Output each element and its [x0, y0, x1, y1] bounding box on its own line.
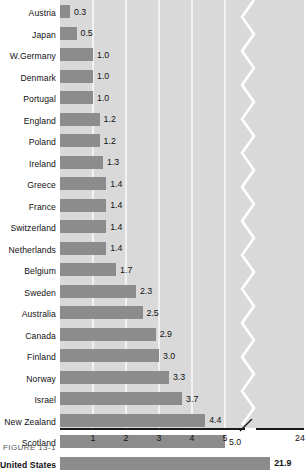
figure-caption: FIGURE 13-1: [3, 444, 56, 452]
bar-row: Belgium1.7: [0, 261, 304, 283]
bar-row: Ireland1.3: [0, 154, 304, 176]
bar-row: Switzerland1.4: [0, 218, 304, 240]
bar: 1.0: [60, 70, 93, 83]
bar-wrapper: 1.0: [60, 48, 93, 61]
bar-wrapper: 2.3: [60, 285, 136, 298]
bar-row: Netherlands1.4: [0, 240, 304, 262]
x-tick-label-24: 24: [295, 434, 305, 443]
bar-wrapper: 4.4: [60, 414, 205, 427]
bar-row: France1.4: [0, 197, 304, 219]
bar-row-label: Canada: [0, 332, 56, 341]
bar-row: W.Germany1.0: [0, 46, 304, 68]
bar-row-label: Japan: [0, 31, 56, 40]
x-tick-label-4: 4: [190, 434, 195, 443]
bar-row-label: United States: [0, 461, 56, 470]
bar-value-label: 2.9: [160, 330, 172, 339]
bar-row: Canada2.9: [0, 326, 304, 348]
bar-wrapper: 1.3: [60, 156, 103, 169]
bar-value-label: 1.0: [97, 50, 109, 59]
bar-value-label: 1.0: [97, 72, 109, 81]
bar-value-label: 0.5: [81, 29, 93, 38]
bar-row-label: France: [0, 203, 56, 212]
bar-wrapper: 1.4: [60, 199, 106, 212]
bar-row-label: Norway: [0, 375, 56, 384]
bar-row: Israel3.7: [0, 390, 304, 412]
x-axis-break-mark: [238, 419, 262, 433]
bar: 1.4: [60, 177, 106, 190]
bar-value-label: 1.2: [104, 136, 116, 145]
x-tick-label-1: 1: [91, 434, 96, 443]
bar-value-label: 0.3: [74, 7, 86, 16]
bar-row-label: W.Germany: [0, 52, 56, 61]
bar-wrapper: 0.5: [60, 27, 77, 40]
bar: 1.0: [60, 48, 93, 61]
bar-row-label: England: [0, 117, 56, 126]
bar: 1.7: [60, 263, 116, 276]
bar-row: Norway3.3: [0, 369, 304, 391]
bar-wrapper: 2.5: [60, 306, 143, 319]
x-tick-label-2: 2: [124, 434, 129, 443]
bar: 3.7: [60, 392, 182, 405]
bar-value-label: 1.3: [107, 158, 119, 167]
bar-row-label: Australia: [0, 310, 56, 319]
bar-value-label: 1.0: [97, 93, 109, 102]
x-axis-line-right: [256, 428, 304, 430]
bar-row: Portugal1.0: [0, 89, 304, 111]
bar-wrapper: 1.2: [60, 113, 100, 126]
x-axis-line-left: [60, 428, 245, 430]
bar-row-label: Israel: [0, 396, 56, 405]
bar-wrapper: 21.9: [60, 457, 270, 470]
bar-row-label: Portugal: [0, 95, 56, 104]
bar-wrapper: 3.0: [60, 349, 159, 362]
bar-row-label: Switzerland: [0, 224, 56, 233]
bar-value-label: 1.4: [110, 222, 122, 231]
x-tick-label-3: 3: [157, 434, 162, 443]
bar-wrapper: 2.9: [60, 328, 156, 341]
bar-row-label: Denmark: [0, 74, 56, 83]
bar: 1.2: [60, 113, 100, 126]
bar: 2.9: [60, 328, 156, 341]
bar-wrapper: 0.3: [60, 5, 70, 18]
bar-row: England1.2: [0, 111, 304, 133]
bar-row: Austria0.3: [0, 3, 304, 25]
bar-wrapper: 1.2: [60, 134, 100, 147]
bar-wrapper: 1.4: [60, 177, 106, 190]
bar-value-label: 1.2: [104, 115, 116, 124]
bar: 1.4: [60, 242, 106, 255]
bar-value-label: 1.4: [110, 179, 122, 188]
bar-value-label: 1.7: [120, 265, 132, 274]
bar-row-label: Sweden: [0, 289, 56, 298]
bar-wrapper: 1.4: [60, 220, 106, 233]
bar-row: United States21.9: [0, 455, 304, 474]
bar-row-label: Greece: [0, 181, 56, 190]
bar-row: Sweden2.3: [0, 283, 304, 305]
bar-wrapper: 3.3: [60, 371, 169, 384]
bar: 3.0: [60, 349, 159, 362]
bar-value-label: 3.7: [186, 394, 198, 403]
bar-value-label: 1.4: [110, 244, 122, 253]
bar: 1.2: [60, 134, 100, 147]
bar-wrapper: 3.7: [60, 392, 182, 405]
bar: 21.9: [60, 457, 270, 470]
bar: 3.3: [60, 371, 169, 384]
bar: 1.0: [60, 91, 93, 104]
bar-value-label: 4.4: [209, 416, 221, 425]
bar-value-label: 2.5: [147, 308, 159, 317]
bar-row-label: Ireland: [0, 160, 56, 169]
bar-wrapper: 1.0: [60, 91, 93, 104]
bar-row: Australia2.5: [0, 304, 304, 326]
bar-rows: Austria0.3Japan0.5W.Germany1.0Denmark1.0…: [0, 3, 304, 474]
x-tick-label-5: 5: [223, 434, 228, 443]
bar: 1.3: [60, 156, 103, 169]
bar-value-label: 1.4: [110, 201, 122, 210]
bar-row-label: Finland: [0, 353, 56, 362]
bar-value-label: 21.9: [274, 459, 291, 468]
bar-row-label: Belgium: [0, 267, 56, 276]
bar-row-label: New Zealand: [0, 418, 56, 427]
bar: 0.3: [60, 5, 70, 18]
bar: 2.3: [60, 285, 136, 298]
x-axis: 1234524: [60, 428, 304, 453]
bar-row-label: Austria: [0, 9, 56, 18]
bar-row: Denmark1.0: [0, 68, 304, 90]
bar: 2.5: [60, 306, 143, 319]
